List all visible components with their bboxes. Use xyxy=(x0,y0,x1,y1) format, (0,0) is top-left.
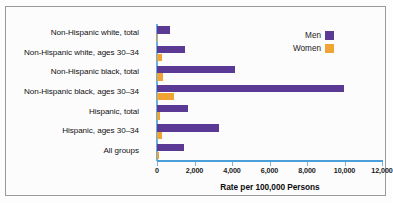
legend-swatch-women xyxy=(325,44,334,53)
chart-legend: MenWomen xyxy=(294,29,334,55)
bar-group xyxy=(157,63,382,83)
bar-women xyxy=(157,152,159,159)
bar-women xyxy=(157,112,160,119)
x-axis-title: Rate per 100,000 Persons xyxy=(157,182,383,192)
bar-men xyxy=(157,46,185,53)
category-label: Non-Hispanic black, total xyxy=(51,67,139,77)
axis-tick-label: 10,000 xyxy=(334,166,355,175)
category-label: Hispanic, ages 30–34 xyxy=(62,126,139,136)
bar-men xyxy=(157,85,344,92)
bar-women xyxy=(157,54,162,61)
bar-men xyxy=(157,26,170,33)
axis-tick-label: 6,000 xyxy=(261,166,279,175)
axis-tick-label: 2,000 xyxy=(186,166,204,175)
chart-frame: Non-Hispanic white, totalNon-Hispanic wh… xyxy=(5,6,386,196)
legend-item[interactable]: Men xyxy=(294,29,334,42)
category-label: Hispanic, total xyxy=(89,107,139,117)
bar-men xyxy=(157,105,188,112)
bar-group xyxy=(157,122,382,142)
legend-item[interactable]: Women xyxy=(294,42,334,55)
bar-group xyxy=(157,83,382,103)
axis-tick-label: 12,000 xyxy=(371,166,392,175)
category-label: Non-Hispanic black, ages 30–34 xyxy=(24,87,139,97)
axis-tick-label: 4,000 xyxy=(223,166,241,175)
bar-men xyxy=(157,66,235,73)
legend-item-label: Men xyxy=(305,31,321,40)
bar-group xyxy=(157,141,382,161)
bar-women xyxy=(157,132,162,139)
axis-tick-label: 8,000 xyxy=(298,166,316,175)
category-label: Non-Hispanic white, total xyxy=(51,28,139,38)
bar-women xyxy=(157,73,163,80)
category-label: All groups xyxy=(104,146,140,156)
category-label: Non-Hispanic white, ages 30–34 xyxy=(24,48,139,58)
bar-women xyxy=(157,34,158,41)
axis-tick-label: 0 xyxy=(155,166,159,175)
bar-group xyxy=(157,24,382,44)
plot-area xyxy=(157,24,382,161)
bar-men xyxy=(157,124,219,131)
bar-group xyxy=(157,44,382,64)
bar-group xyxy=(157,102,382,122)
bar-women xyxy=(157,93,174,100)
legend-swatch-men xyxy=(325,31,334,40)
bar-men xyxy=(157,144,184,151)
legend-item-label: Women xyxy=(293,44,321,53)
